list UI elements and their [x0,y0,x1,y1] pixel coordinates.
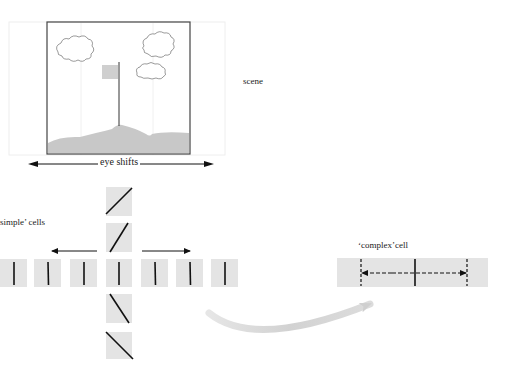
simple-cell [106,187,132,216]
simple-cell [34,259,61,287]
flag-icon [102,65,118,79]
visual-cortex-diagram [0,0,511,379]
simple-cell [70,259,97,287]
complex-cell-label: ‘complex’cell [358,240,408,250]
simple-cell [106,332,133,359]
scene-label: scene [243,76,263,86]
simple-cell [106,259,132,287]
complex-cell [337,258,488,287]
simple-cell [106,223,132,252]
simple-cell [176,259,203,287]
simple-cell [141,259,168,287]
arrow-left-icon [28,161,38,167]
simple-cell [0,259,27,287]
simple-cells-row [0,259,238,287]
arrow-right-icon [204,161,214,167]
simple-cells-label: simple’ cells [0,217,45,227]
scene-panel [9,22,225,155]
eye-shifts-label: eye shifts [98,156,140,167]
simple-cell [211,259,238,287]
curved-arrow-icon [209,304,370,329]
simple-cell [106,294,132,323]
